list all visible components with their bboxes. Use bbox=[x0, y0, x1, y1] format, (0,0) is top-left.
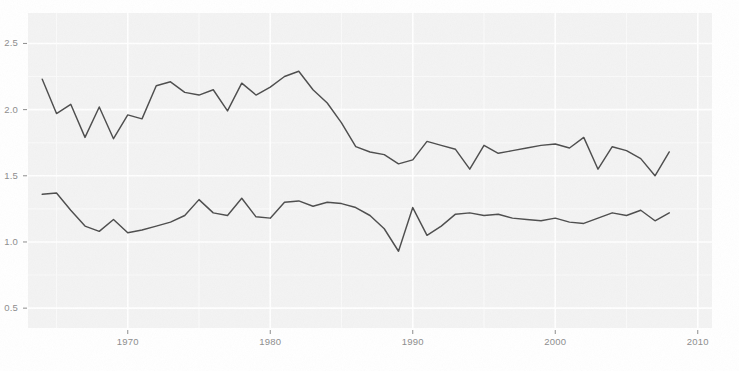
plot-svg bbox=[0, 0, 739, 371]
x-tick-label: 1970 bbox=[108, 336, 148, 347]
x-tick-label: 1980 bbox=[250, 336, 290, 347]
series-lines bbox=[42, 71, 669, 251]
grid-major-lines bbox=[28, 13, 712, 328]
axis-ticks bbox=[23, 43, 698, 334]
x-tick-label: 1990 bbox=[393, 336, 433, 347]
chart-figure: 0.51.01.52.02.5 19701980199020002010 bbox=[0, 0, 739, 371]
y-tick-label: 1.0 bbox=[0, 236, 18, 247]
upper-series bbox=[42, 71, 669, 176]
x-tick-label: 2010 bbox=[678, 336, 718, 347]
y-tick-label: 2.0 bbox=[0, 104, 18, 115]
y-tick-label: 0.5 bbox=[0, 302, 18, 313]
y-tick-label: 1.5 bbox=[0, 170, 18, 181]
x-tick-label: 2000 bbox=[535, 336, 575, 347]
y-tick-label: 2.5 bbox=[0, 37, 18, 48]
grid-minor-lines bbox=[28, 13, 712, 328]
